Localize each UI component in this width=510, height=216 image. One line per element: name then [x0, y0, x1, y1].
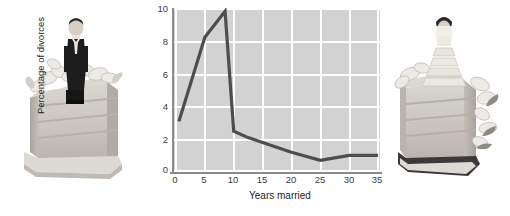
cake-body — [398, 72, 480, 176]
x-tick-label-30: 30 — [337, 175, 361, 185]
x-tick-label-35: 35 — [365, 175, 389, 185]
x-tick-label-0: 0 — [163, 175, 187, 185]
divorce-rate-line-chart: 10 8 6 4 2 0 0 5 10 15 20 25 30 35 Perce… — [0, 0, 388, 216]
y-tick-label-0: 0 — [146, 165, 168, 175]
y-tick-label-2: 2 — [146, 135, 168, 145]
bride-figurine-on-wedding-cake-photo — [388, 6, 506, 206]
y-tick-label-4: 4 — [146, 102, 168, 112]
y-tick-label-6: 6 — [146, 70, 168, 80]
bride-figurine — [422, 17, 466, 86]
x-tick-label-5: 5 — [192, 175, 216, 185]
plot-area — [173, 8, 380, 172]
x-axis-label: Years married — [200, 190, 360, 201]
x-tick-label-10: 10 — [221, 175, 245, 185]
figure-root: 10 8 6 4 2 0 0 5 10 15 20 25 30 35 Perce… — [0, 0, 510, 216]
x-tick-label-20: 20 — [279, 175, 303, 185]
y-axis-label: Percentage of divorces — [35, 1, 46, 131]
y-tick-label-10: 10 — [146, 4, 168, 14]
y-axis-line — [172, 8, 174, 172]
x-tick-label-15: 15 — [250, 175, 274, 185]
bride-cake-illustration — [388, 6, 506, 206]
y-tick-label-8: 8 — [146, 37, 168, 47]
x-tick-label-25: 25 — [308, 175, 332, 185]
series-line-divorce-percentage — [173, 8, 380, 172]
